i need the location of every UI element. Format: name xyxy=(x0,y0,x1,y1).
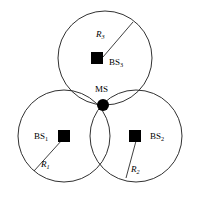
base-station-marker-1 xyxy=(58,130,70,142)
base-station-marker-3 xyxy=(91,52,103,64)
base-station-label-2-sub: 2 xyxy=(161,135,164,142)
radius-label-2-sub: 2 xyxy=(137,168,140,175)
base-station-label-3-main: BS xyxy=(109,57,120,67)
radius-label-2-main: R xyxy=(131,164,137,174)
base-station-label-1-sub: 1 xyxy=(45,135,48,142)
base-station-label-2-main: BS xyxy=(150,131,161,141)
radius-label-3-sub: 3 xyxy=(102,33,105,40)
radius-label-1-main: R xyxy=(41,159,47,169)
mobile-station-label: MS xyxy=(95,85,108,94)
base-station-label-2: BS2 xyxy=(150,132,164,141)
radius-line-3 xyxy=(103,22,133,57)
radius-label-2: R2 xyxy=(131,165,140,174)
base-station-label-1-main: BS xyxy=(34,131,45,141)
mobile-station-marker xyxy=(97,99,109,111)
radius-label-3-main: R xyxy=(96,29,102,39)
base-station-label-1: BS1 xyxy=(34,132,48,141)
mobile-station-label-main: MS xyxy=(95,84,108,94)
cellular-coverage-diagram: R3 BS3 MS BS1 R1 BS2 R2 xyxy=(0,0,201,198)
base-station-label-3: BS3 xyxy=(109,58,123,67)
radius-label-1-sub: 1 xyxy=(47,163,50,170)
base-station-label-3-sub: 3 xyxy=(120,61,123,68)
radius-label-1: R1 xyxy=(41,160,50,169)
base-station-marker-2 xyxy=(129,130,141,142)
radius-label-3: R3 xyxy=(96,30,105,39)
